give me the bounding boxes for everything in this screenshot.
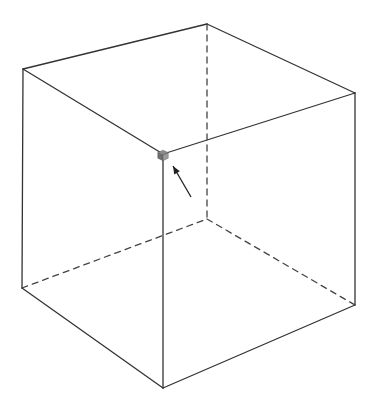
edge-top_back-top_right	[207, 24, 355, 93]
edge-top_left-top_front	[23, 69, 163, 154]
hidden-edges	[22, 24, 355, 305]
arrow-head	[173, 166, 180, 175]
edge-bottom_front-bottom_right	[163, 305, 355, 388]
arrow-icon	[173, 166, 191, 197]
visible-edges	[22, 24, 355, 388]
edge-top_left-top_back	[23, 24, 207, 69]
hidden-edge-bottom_back-bottom_right	[207, 219, 355, 305]
edge-top_left-bottom_left	[22, 69, 23, 288]
edge-bottom_left-bottom_front	[22, 288, 163, 388]
hidden-edge-bottom_left-bottom_back	[22, 219, 207, 288]
cube-diagram	[0, 0, 375, 406]
vertex-marker-cube	[158, 150, 169, 161]
edge-top_front-top_right	[163, 93, 355, 154]
